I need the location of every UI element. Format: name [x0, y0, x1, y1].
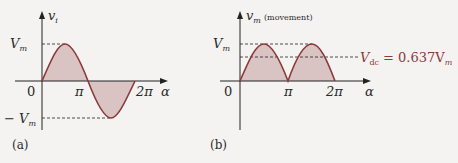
- panel-b: vm(movement) Vm Vdc= 0.637Vm 0 π 2π α (b…: [210, 8, 453, 152]
- alpha-axis-label: α: [365, 84, 374, 99]
- alpha-axis-label: α: [161, 84, 170, 99]
- y-axis-arrow-icon: [237, 11, 243, 19]
- zero-tick: 0: [27, 84, 35, 99]
- vm-label: Vm: [10, 36, 27, 53]
- pi-tick: π: [283, 84, 293, 99]
- two-pi-tick: 2π: [325, 84, 343, 99]
- caption-a: (a): [12, 138, 29, 152]
- caption-b: (b): [210, 138, 227, 152]
- positive-half-fill: [42, 44, 88, 81]
- vdc-annotation: Vdc= 0.637Vm: [360, 50, 453, 67]
- vm-label: Vm: [213, 36, 230, 53]
- y-label: vm(movement): [246, 8, 313, 25]
- panel-a: vi Vm − Vm 0 π 2π α (a): [4, 8, 170, 152]
- neg-vm-label: − Vm: [4, 111, 36, 128]
- y-label: vi: [48, 8, 58, 25]
- zero-tick: 0: [224, 84, 232, 99]
- y-axis-arrow-icon: [39, 11, 45, 19]
- two-pi-tick: 2π: [135, 84, 153, 99]
- figure: vi Vm − Vm 0 π 2π α (a) vm(movement) Vm …: [0, 0, 458, 163]
- pi-tick: π: [74, 84, 84, 99]
